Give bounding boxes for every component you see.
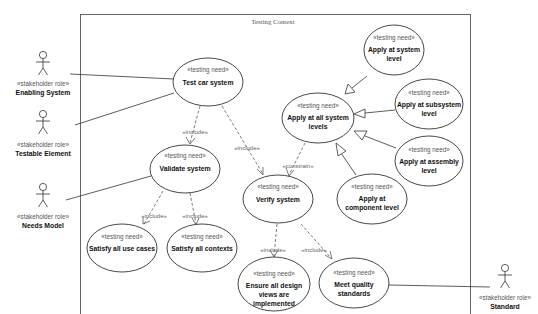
association-enabling-system [70, 74, 174, 79]
stick-figure-icon [36, 110, 50, 134]
svg-text:implemented: implemented [253, 300, 295, 308]
use-case-apply-assembly-level[interactable]: «testing need» Apply at assembly level [395, 136, 463, 186]
svg-text:Standard: Standard [490, 303, 519, 310]
svg-text:«include»: «include» [260, 247, 286, 253]
include-validate-to-contexts: «include» [182, 193, 208, 225]
svg-text:«stakeholder role»: «stakeholder role» [17, 213, 69, 220]
include-test-car-to-validate: «include» [182, 106, 208, 144]
use-case-apply-subsystem-level[interactable]: «testing need» Apply at subsystem level [395, 79, 463, 129]
use-case-validate-system[interactable]: «testing need» Validate system [150, 145, 220, 193]
stick-figure-icon [36, 183, 50, 207]
include-validate-to-use-cases: «include» [141, 191, 167, 224]
use-case-satisfy-contexts[interactable]: «testing need» Satisfy all contexts [167, 224, 237, 272]
svg-text:level: level [421, 167, 436, 174]
svg-text:«testing need»: «testing need» [351, 183, 393, 191]
use-case-satisfy-use-cases[interactable]: «testing need» Satisfy all use cases [87, 224, 157, 272]
association-standard [389, 285, 490, 287]
svg-text:«include»: «include» [141, 213, 167, 219]
svg-text:Satisfy all contexts: Satisfy all contexts [171, 245, 233, 253]
actor-enabling-system[interactable]: «stakeholder role» Enabling System [16, 51, 71, 97]
svg-text:«constrain»: «constrain» [282, 163, 314, 169]
association-needs-model [66, 176, 151, 200]
svg-text:«include»: «include» [182, 129, 208, 135]
use-case-apply-all-levels[interactable]: «testing need» Apply at all system level… [282, 93, 354, 143]
generalization-subsystem-level [354, 109, 395, 118]
svg-text:Needs Model: Needs Model [22, 222, 64, 229]
svg-text:«testing need»: «testing need» [257, 183, 299, 191]
svg-text:«testing need»: «testing need» [408, 146, 450, 154]
stick-figure-icon [498, 264, 512, 288]
association-testable-element [75, 93, 174, 125]
svg-text:level: level [421, 110, 436, 117]
generalization-assembly-level [354, 131, 396, 148]
svg-text:«testing need»: «testing need» [408, 89, 450, 97]
stick-figure-icon [36, 51, 50, 75]
use-case-ensure-design-views[interactable]: «testing need» Ensure all design views a… [238, 257, 310, 311]
svg-text:Testable Element: Testable Element [15, 150, 71, 157]
svg-text:component level: component level [345, 204, 399, 212]
svg-text:Validate system: Validate system [159, 165, 210, 173]
svg-text:Apply at system: Apply at system [368, 46, 420, 54]
svg-text:«testing need»: «testing need» [101, 233, 143, 241]
svg-text:«include»: «include» [234, 145, 260, 151]
svg-text:Verify system: Verify system [256, 196, 300, 204]
actor-needs-model[interactable]: «stakeholder role» Needs Model [17, 183, 69, 229]
svg-text:«include»: «include» [301, 247, 327, 253]
svg-text:«testing need»: «testing need» [187, 66, 229, 74]
svg-text:«testing need»: «testing need» [297, 102, 339, 110]
generalization-system-level [345, 76, 367, 94]
svg-text:Apply at: Apply at [359, 195, 387, 203]
svg-text:«testing need»: «testing need» [253, 270, 295, 278]
svg-text:Enabling System: Enabling System [16, 89, 71, 97]
svg-text:«stakeholder role»: «stakeholder role» [479, 294, 531, 301]
include-verify-to-ensure: «include» [260, 224, 286, 257]
svg-text:«testing need»: «testing need» [373, 34, 415, 42]
boundary-title: Testing Context [251, 18, 294, 25]
use-case-test-car-system[interactable]: «testing need» Test car system [173, 58, 243, 106]
constrain-all-levels-to-verify: «constrain» [282, 143, 314, 176]
svg-text:Test car system: Test car system [183, 79, 234, 87]
svg-text:«stakeholder role»: «stakeholder role» [17, 141, 69, 148]
actor-testable-element[interactable]: «stakeholder role» Testable Element [15, 110, 71, 157]
svg-text:Satisfy all use cases: Satisfy all use cases [89, 245, 155, 253]
svg-text:standards: standards [338, 290, 371, 297]
svg-text:«testing need»: «testing need» [164, 152, 206, 160]
use-case-apply-system-level[interactable]: «testing need» Apply at system level [364, 25, 424, 75]
svg-text:views are: views are [259, 291, 290, 298]
svg-text:Apply at all system: Apply at all system [287, 114, 349, 122]
use-case-verify-system[interactable]: «testing need» Verify system [243, 175, 313, 223]
svg-text:Ensure all design: Ensure all design [246, 282, 302, 290]
svg-text:«testing need»: «testing need» [181, 233, 223, 241]
use-case-apply-component-level[interactable]: «testing need» Apply at component level [337, 174, 407, 224]
use-case-diagram: Testing Context «include» «include» «inc… [0, 0, 538, 314]
svg-text:Apply at assembly: Apply at assembly [399, 158, 459, 166]
svg-text:Apply at subsystem: Apply at subsystem [397, 101, 461, 109]
include-test-car-to-verify: «include» [222, 106, 263, 175]
svg-text:level: level [386, 55, 401, 62]
svg-text:«stakeholder role»: «stakeholder role» [17, 80, 69, 87]
svg-text:«include»: «include» [182, 213, 208, 219]
generalization-component-level [336, 143, 356, 175]
include-verify-to-quality: «include» [301, 224, 332, 259]
svg-text:levels: levels [309, 123, 328, 130]
svg-text:Meet quality: Meet quality [334, 281, 373, 289]
svg-text:«testing need»: «testing need» [333, 269, 375, 277]
use-case-meet-quality[interactable]: «testing need» Meet quality standards [319, 258, 389, 308]
